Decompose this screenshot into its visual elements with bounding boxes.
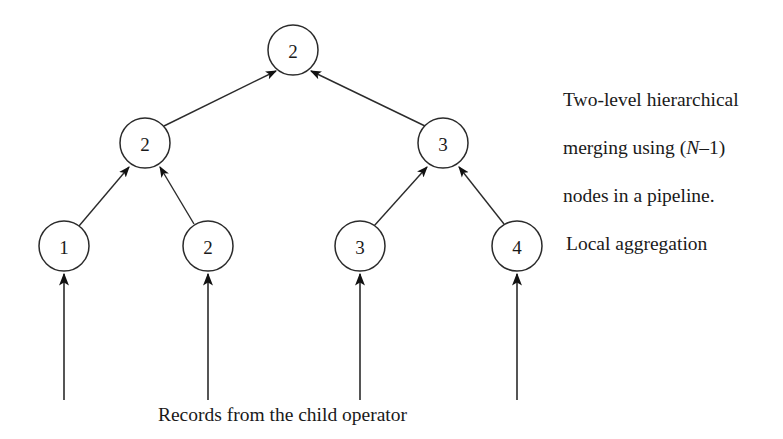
annotation-line-1: Two-level hierarchical [563, 89, 739, 110]
node-leaf-4-label: 4 [512, 237, 522, 258]
edge-leaf4-to-midright [459, 167, 504, 224]
node-merge-left[interactable]: 2 [120, 118, 170, 168]
node-root[interactable]: 2 [268, 25, 318, 75]
node-leaf-1-label: 1 [59, 237, 69, 258]
node-leaf-2[interactable]: 2 [183, 221, 233, 271]
annotation-line-2-prefix: merging using ( [563, 137, 686, 158]
edge-midleft-to-root [164, 71, 276, 126]
node-leaf-2-label: 2 [203, 237, 213, 258]
node-merge-right-label: 3 [438, 134, 448, 155]
annotation-line-3: nodes in a pipeline. [563, 185, 715, 206]
annotation-hierarchical-merging: Two-level hierarchical merging using (N–… [563, 64, 778, 208]
node-merge-right[interactable]: 3 [418, 118, 468, 168]
caption-records-from-child-operator: Records from the child operator [0, 404, 565, 426]
figure-canvas: 2 2 3 1 2 3 4 Two-level hierarchic [0, 0, 783, 439]
edge-midright-to-root [311, 71, 425, 126]
node-leaf-3[interactable]: 3 [335, 221, 385, 271]
annotation-local-aggregation: Local aggregation [566, 232, 776, 256]
node-leaf-4[interactable]: 4 [492, 221, 542, 271]
node-merge-left-label: 2 [140, 134, 150, 155]
edge-leaf1-to-midleft [79, 167, 129, 226]
annotation-line-2-suffix: –1) [699, 137, 725, 158]
edge-leaf3-to-midright [374, 167, 427, 226]
node-leaf-3-label: 3 [355, 237, 365, 258]
node-root-label: 2 [288, 41, 298, 62]
edge-leaf2-to-midleft [160, 167, 194, 224]
node-leaf-1[interactable]: 1 [39, 221, 89, 271]
annotation-line-2-variable: N [686, 137, 699, 158]
